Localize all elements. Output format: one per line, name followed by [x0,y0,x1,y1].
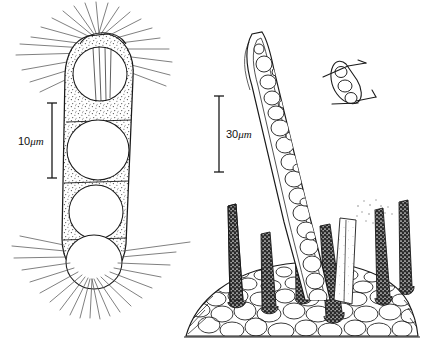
cell-3 [69,185,123,239]
illustration-canvas: 10μm [0,0,442,348]
figure-plate: 10μm [0,0,442,348]
cell-4 [66,235,122,289]
capsule-body [62,33,133,289]
capsule-cells [66,47,129,289]
cell-2 [67,120,129,180]
scale-bar-right-label: 30μm [226,128,252,140]
scale-bar-left-label: 10μm [18,135,44,147]
